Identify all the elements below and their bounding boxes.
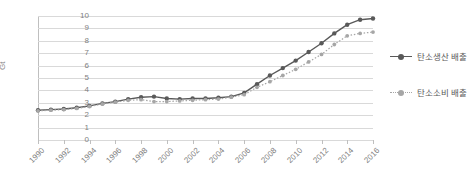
data-point-marker	[268, 80, 272, 84]
data-point-marker	[319, 41, 323, 45]
x-tick-label: 2004	[201, 146, 227, 172]
x-tick-mark	[115, 140, 116, 144]
data-point-marker	[152, 100, 156, 104]
data-point-marker	[178, 99, 182, 103]
y-tick-label: 7	[61, 49, 89, 57]
data-point-marker	[358, 18, 362, 22]
x-tick-label: 1990	[20, 146, 46, 172]
x-tick-mark	[38, 140, 39, 144]
x-tick-label: 2006	[226, 146, 252, 172]
data-point-marker	[101, 102, 105, 106]
legend-label-consumption: 탄소소비 배출	[417, 88, 467, 98]
data-point-marker	[281, 74, 285, 78]
data-point-marker	[255, 85, 259, 89]
x-tick-label: 2012	[304, 146, 330, 172]
data-point-marker	[49, 108, 53, 112]
x-tick-mark	[296, 140, 297, 144]
x-tick-label: 2000	[149, 146, 175, 172]
data-point-marker	[217, 97, 221, 101]
data-point-marker	[294, 58, 298, 62]
data-point-marker	[36, 109, 40, 113]
data-point-marker	[345, 23, 349, 27]
data-point-marker	[371, 16, 375, 20]
x-tick-label: 1996	[97, 146, 123, 172]
data-point-marker	[165, 100, 169, 104]
data-point-marker	[139, 98, 143, 102]
x-tick-mark	[322, 140, 323, 144]
x-tick-mark	[90, 140, 91, 144]
data-point-marker	[268, 73, 272, 77]
data-point-marker	[307, 60, 311, 64]
x-tick-label: 1992	[46, 146, 72, 172]
data-point-marker	[191, 98, 195, 102]
x-tick-label: 2010	[278, 146, 304, 172]
x-tick-mark	[373, 140, 374, 144]
x-tick-mark	[218, 140, 219, 144]
y-tick-label: 0	[61, 136, 89, 144]
x-tick-mark	[193, 140, 194, 144]
y-tick-label: 3	[61, 99, 89, 107]
legend-item-consumption[interactable]: 탄소소비 배출	[390, 88, 464, 98]
data-point-marker	[320, 53, 324, 57]
data-point-marker	[204, 98, 208, 102]
data-point-marker	[152, 94, 156, 98]
data-point-marker	[281, 66, 285, 70]
x-tick-mark	[141, 140, 142, 144]
x-tick-label: 1998	[123, 146, 149, 172]
y-tick-label: 8	[61, 37, 89, 45]
y-tick-label: 9	[61, 24, 89, 32]
data-point-marker	[75, 107, 79, 111]
x-tick-label: 2016	[355, 146, 381, 172]
data-point-marker	[332, 43, 336, 47]
data-point-marker	[371, 30, 375, 34]
data-point-marker	[229, 95, 233, 99]
data-point-marker	[242, 93, 246, 97]
legend-label-production: 탄소생산 배출	[417, 52, 467, 62]
y-tick-label: 4	[61, 86, 89, 94]
data-point-marker	[332, 31, 336, 35]
x-tick-mark	[64, 140, 65, 144]
x-tick-label: 1994	[72, 146, 98, 172]
x-tick-label: 2002	[175, 146, 201, 172]
y-tick-label: 6	[61, 62, 89, 70]
legend-item-production[interactable]: 탄소생산 배출	[390, 52, 464, 62]
data-point-marker	[358, 32, 362, 36]
y-tick-label: 2	[61, 111, 89, 119]
data-point-marker	[345, 34, 349, 38]
x-tick-mark	[244, 140, 245, 144]
data-point-marker	[113, 100, 117, 104]
y-tick-label: 10	[61, 12, 89, 20]
data-point-marker	[294, 67, 298, 71]
y-tick-label: 1	[61, 124, 89, 132]
y-axis-title: Gt	[0, 62, 7, 70]
legend-marker-solid-icon	[390, 52, 412, 62]
legend-marker-dotted-icon	[390, 88, 412, 98]
data-point-marker	[126, 98, 130, 102]
data-point-marker	[306, 50, 310, 54]
chart-legend: 탄소생산 배출 탄소소비 배출	[390, 52, 464, 124]
x-tick-mark	[347, 140, 348, 144]
x-tick-mark	[270, 140, 271, 144]
x-tick-label: 2008	[252, 146, 278, 172]
y-tick-label: 5	[61, 74, 89, 82]
x-tick-label: 2014	[329, 146, 355, 172]
x-tick-mark	[167, 140, 168, 144]
